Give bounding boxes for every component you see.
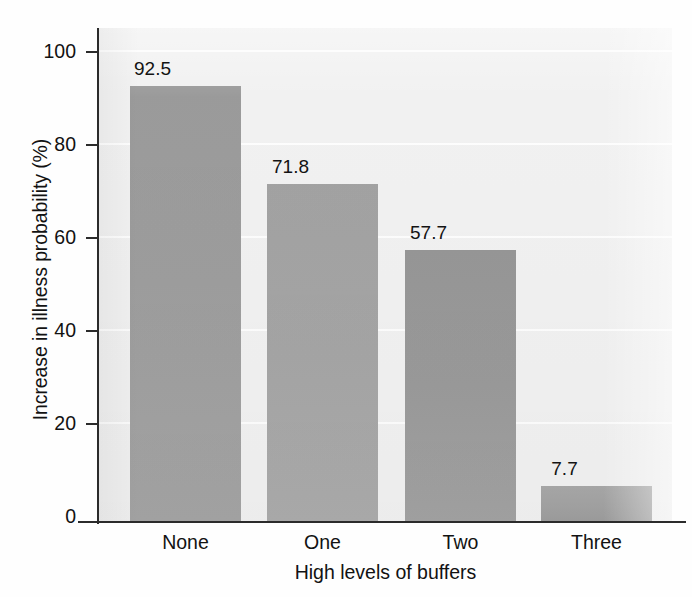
y-axis-title: Increase in illness probability (%) (29, 30, 52, 530)
y-tick-label-80: 80 (6, 133, 76, 156)
y-tick-label-0: 0 (6, 505, 76, 528)
bar-two[interactable] (405, 250, 516, 522)
value-label-none: 92.5 (97, 58, 208, 80)
y-tick-label-60: 60 (6, 226, 76, 249)
value-label-one: 71.8 (235, 156, 346, 178)
plot-area (99, 28, 672, 522)
value-label-two: 57.7 (373, 222, 484, 244)
value-label-three: 7.7 (509, 458, 620, 480)
x-tick-label-two: Two (405, 531, 516, 554)
gridline-100 (99, 50, 672, 52)
x-tick-label-none: None (130, 531, 241, 554)
bar-three[interactable] (541, 486, 652, 522)
y-axis-line (97, 28, 99, 524)
x-tick-label-one: One (267, 531, 378, 554)
y-tick-label-20: 20 (6, 412, 76, 435)
x-axis-line (78, 521, 686, 523)
x-tick-label-three: Three (541, 531, 652, 554)
bar-one[interactable] (267, 184, 378, 522)
y-tick-label-40: 40 (6, 319, 76, 342)
bar-none[interactable] (130, 86, 241, 522)
y-tick-label-100: 100 (6, 40, 76, 63)
bar-chart-figure: Increase in illness probability (%) 100 … (0, 0, 692, 597)
x-axis-title: High levels of buffers (99, 561, 672, 584)
